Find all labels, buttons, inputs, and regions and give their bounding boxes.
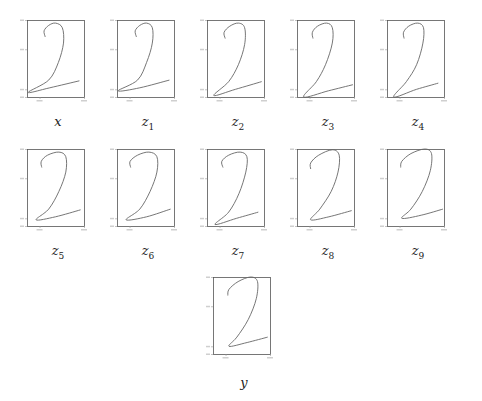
label-z8: z8: [288, 243, 368, 261]
digit-curve: [28, 23, 79, 93]
plot-z1: [108, 14, 188, 114]
tick-label: [110, 97, 114, 99]
tick-label: [380, 149, 384, 151]
label-main: y: [240, 375, 247, 390]
tick-label: [223, 357, 229, 359]
axes-frame: [118, 150, 175, 227]
tick-label: [380, 97, 384, 99]
axes-frame: [208, 21, 265, 98]
label-sub: 4: [419, 122, 425, 132]
digit-curve: [215, 152, 258, 225]
plot-z4: [378, 14, 458, 114]
tick-label: [380, 89, 384, 91]
plot-svg: [108, 14, 188, 114]
tick-label: [290, 149, 294, 151]
axes-frame: [208, 150, 265, 227]
tick-label: [380, 218, 384, 220]
axes-frame: [298, 150, 355, 227]
tick-label: [200, 97, 204, 99]
label-sub: 8: [329, 251, 335, 261]
plot-svg: [198, 14, 278, 114]
panel-z1: z1: [108, 14, 188, 144]
label-sub: 3: [329, 122, 335, 132]
label-sub: 5: [59, 251, 65, 261]
digit-curve: [118, 23, 169, 91]
tick-label: [307, 229, 313, 231]
panel-z2: z2: [198, 14, 278, 144]
label-x: x: [18, 114, 98, 132]
label-z3: z3: [288, 114, 368, 132]
tick-label: [200, 218, 204, 220]
tick-label: [307, 100, 313, 102]
label-sub: 6: [149, 251, 155, 261]
tick-label: [200, 178, 204, 180]
tick-label: [380, 226, 384, 228]
panel-z8: z8: [288, 143, 368, 273]
digit-curve: [36, 152, 81, 220]
tick-label: [290, 49, 294, 51]
tick-label: [200, 226, 204, 228]
digit-curve: [228, 277, 268, 346]
tick-label: [37, 100, 43, 102]
panel-z3: z3: [288, 14, 368, 144]
panel-x: x: [18, 14, 98, 144]
plot-svg: [18, 143, 98, 243]
label-main: z: [142, 114, 149, 129]
digit-curve: [214, 23, 262, 96]
tick-label: [20, 178, 24, 180]
label-main: z: [412, 243, 419, 258]
digit-curve: [304, 23, 353, 97]
tick-label: [206, 277, 210, 279]
plot-z6: [108, 143, 188, 243]
tick-label: [171, 100, 177, 102]
axes-frame: [214, 278, 271, 355]
tick-label: [200, 149, 204, 151]
tick-label: [217, 100, 223, 102]
label-sub: 1: [149, 122, 155, 132]
label-main: z: [52, 243, 59, 258]
plot-z8: [288, 143, 368, 243]
tick-label: [380, 49, 384, 51]
tick-label: [200, 49, 204, 51]
tick-label: [206, 346, 210, 348]
tick-label: [20, 89, 24, 91]
tick-label: [20, 97, 24, 99]
panel-z4: z4: [378, 14, 458, 144]
plot-x: [18, 14, 98, 114]
tick-label: [110, 149, 114, 151]
label-z5: z5: [18, 243, 98, 261]
tick-label: [290, 20, 294, 22]
tick-label: [290, 218, 294, 220]
plot-y: [204, 271, 284, 371]
axes-frame: [28, 150, 85, 227]
plot-svg: [288, 143, 368, 243]
tick-label: [110, 20, 114, 22]
label-main: z: [232, 114, 239, 129]
tick-label: [206, 354, 210, 356]
label-main: z: [412, 114, 419, 129]
tick-label: [110, 178, 114, 180]
plot-svg: [378, 143, 458, 243]
tick-label: [127, 100, 133, 102]
tick-label: [261, 229, 267, 231]
label-main: z: [142, 243, 149, 258]
tick-label: [351, 100, 357, 102]
label-z4: z4: [378, 114, 458, 132]
tick-label: [20, 20, 24, 22]
label-main: z: [232, 243, 239, 258]
tick-label: [267, 357, 273, 359]
tick-label: [200, 20, 204, 22]
digit-curve: [401, 149, 443, 219]
axes-frame: [388, 21, 445, 98]
tick-label: [441, 229, 447, 231]
label-z7: z7: [198, 243, 278, 261]
tick-label: [20, 218, 24, 220]
plot-svg: [198, 143, 278, 243]
tick-label: [200, 89, 204, 91]
label-main: z: [322, 114, 329, 129]
panel-z9: z9: [378, 143, 458, 273]
tick-label: [380, 20, 384, 22]
tick-label: [110, 49, 114, 51]
plot-z3: [288, 14, 368, 114]
label-sub: 2: [239, 122, 245, 132]
